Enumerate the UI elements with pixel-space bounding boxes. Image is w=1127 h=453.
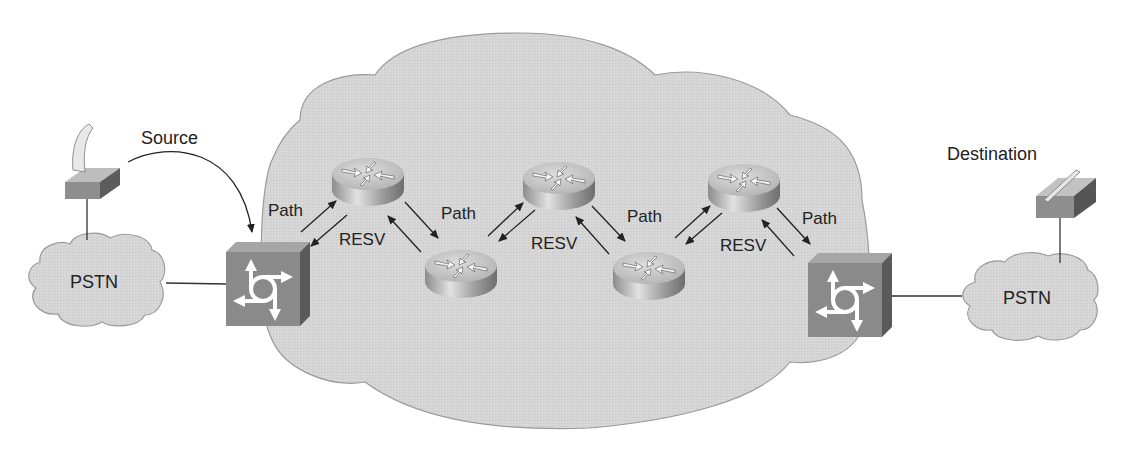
pstn-right-label: PSTN <box>1003 288 1051 309</box>
path-label-1: Path <box>268 201 303 221</box>
telephone-right-icon <box>1036 170 1096 218</box>
source-call-arrow <box>128 152 252 232</box>
resv-label-3: RESV <box>720 236 766 256</box>
destination-label: Destination <box>947 144 1037 165</box>
voice-gateway-left-icon <box>226 242 310 326</box>
router-3-icon <box>523 162 595 210</box>
voice-gateway-right-icon <box>808 253 892 337</box>
link-pstn-left-gateway <box>166 283 228 284</box>
path-label-3: Path <box>627 207 662 227</box>
source-label: Source <box>141 128 198 149</box>
router-4-icon <box>613 252 685 300</box>
router-5-icon <box>708 164 780 212</box>
telephone-left-icon <box>65 124 120 199</box>
router-1-icon <box>332 158 404 206</box>
resv-label-2: RESV <box>531 234 577 254</box>
resv-label-1: RESV <box>339 230 385 250</box>
path-label-2: Path <box>441 204 476 224</box>
router-2-icon <box>425 250 497 298</box>
path-label-4: Path <box>802 209 837 229</box>
rsvp-network-diagram <box>0 0 1127 453</box>
pstn-left-label: PSTN <box>70 272 118 293</box>
